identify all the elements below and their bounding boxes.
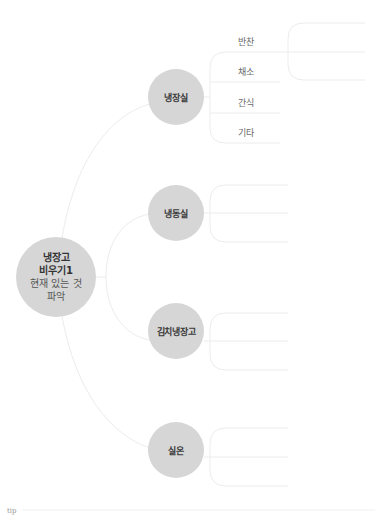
branch-node-kimchi-fridge[interactable]: 김치냉장고 <box>148 303 204 359</box>
root-line-1: 냉장고 <box>43 251 70 264</box>
root-node[interactable]: 냉장고 비우기1 현재 있는 것 파악 <box>16 237 96 317</box>
branch-node-fridge[interactable]: 냉장실 <box>148 69 204 125</box>
leaf-etc[interactable]: 기타 <box>238 126 254 139</box>
bracket-fridge <box>210 52 226 143</box>
root-line-4: 파악 <box>47 290 65 303</box>
root-line-2: 비우기1 <box>39 264 73 277</box>
branch-label: 김치냉장고 <box>157 325 196 338</box>
branch-label: 냉장실 <box>164 91 187 104</box>
connector-root-kimchi <box>106 277 150 340</box>
tip-label: tip <box>7 507 17 515</box>
connector-root-freezer <box>106 214 150 277</box>
root-line-3: 현재 있는 것 <box>30 277 81 290</box>
branch-label: 냉동실 <box>164 207 187 220</box>
branch-node-room-temp[interactable]: 실온 <box>148 422 204 478</box>
leaf-snacks[interactable]: 간식 <box>238 96 254 109</box>
branch-node-freezer[interactable]: 냉동실 <box>148 185 204 241</box>
branch-label: 실온 <box>168 444 183 457</box>
leaf-banchan[interactable]: 반찬 <box>238 35 254 48</box>
leaf-vegetables[interactable]: 채소 <box>238 65 254 78</box>
